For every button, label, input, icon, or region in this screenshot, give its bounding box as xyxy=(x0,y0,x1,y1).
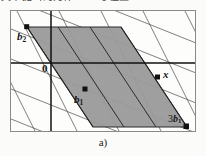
cropped-header-text: 文中提出的为什么 —号位置 …… xyxy=(1,0,154,2)
label-3b1: 3b1 xyxy=(168,114,181,125)
cropped-header-text-strip: 文中提出的为什么 —号位置 …… xyxy=(0,0,206,9)
label-b2: b2 xyxy=(17,31,26,43)
point-marker-b1 xyxy=(83,87,88,92)
label-b1-subscript: 1 xyxy=(80,98,84,107)
point-marker-3b1 xyxy=(184,124,190,130)
figure-page: 文中提出的为什么 —号位置 …… xyxy=(0,0,206,156)
figure-caption: a) xyxy=(0,136,206,148)
label-b2-subscript: 2 xyxy=(23,35,27,44)
label-3b1-subscript: 1 xyxy=(178,117,181,124)
lattice-line-steep xyxy=(11,11,23,131)
label-x: x xyxy=(163,69,169,80)
label-b1: b1 xyxy=(74,94,83,106)
point-marker-x xyxy=(155,75,160,80)
point-marker-b2 xyxy=(24,24,29,29)
label-origin: 0 xyxy=(42,63,48,74)
